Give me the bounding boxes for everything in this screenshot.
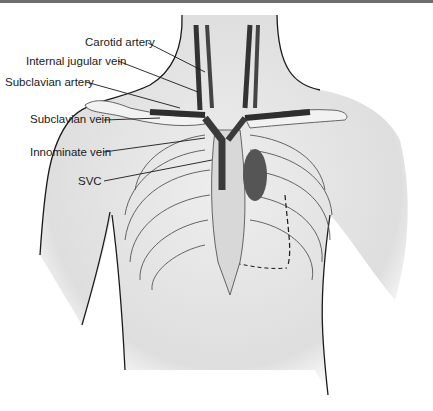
- label-innominate-vein: Innominate vein: [30, 146, 111, 159]
- label-subclavian-artery: Subclavian artery: [5, 76, 94, 89]
- label-carotid-artery: Carotid artery: [85, 36, 155, 49]
- label-subclavian-vein: Subclavian vein: [30, 113, 111, 126]
- label-internal-jugular-vein: Internal jugular vein: [26, 55, 126, 68]
- label-svc: SVC: [78, 175, 102, 188]
